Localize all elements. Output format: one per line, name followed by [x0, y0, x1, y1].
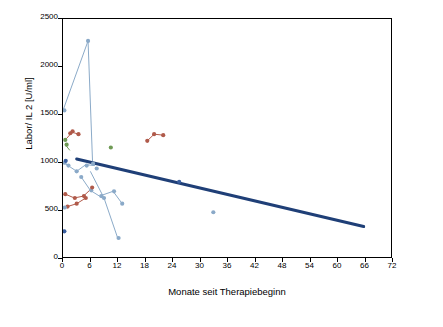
y-tick-mark	[58, 18, 62, 19]
x-tick-mark	[90, 258, 91, 262]
data-point	[102, 196, 106, 200]
data-point	[120, 202, 124, 206]
data-point	[177, 180, 181, 184]
y-tick-mark	[58, 162, 62, 163]
data-point	[91, 162, 95, 166]
x-tick-label: 6	[78, 262, 102, 270]
data-point	[76, 132, 80, 136]
data-point	[85, 164, 89, 168]
chart-container: Labor/ IL 2 [U/ml] 05001000150020002500 …	[0, 0, 443, 327]
series-line	[81, 177, 122, 204]
data-point	[63, 192, 67, 196]
x-tick-label: 72	[380, 262, 404, 270]
x-axis-title: Monate seit Therapiebeginn	[62, 286, 392, 297]
data-point	[63, 108, 66, 112]
data-point	[161, 133, 165, 137]
data-point	[73, 196, 77, 200]
x-tick-mark	[227, 258, 228, 262]
y-tick-label: 1500	[20, 109, 58, 117]
series-line	[63, 41, 88, 110]
trend-line	[77, 159, 364, 227]
y-tick-label: 1000	[20, 157, 58, 165]
x-tick-label: 18	[133, 262, 157, 270]
data-point	[112, 189, 116, 193]
x-tick-mark	[117, 258, 118, 262]
x-tick-mark	[172, 258, 173, 262]
data-point	[116, 236, 120, 240]
plot-svg	[63, 19, 391, 257]
x-tick-mark	[200, 258, 201, 262]
series-line	[65, 188, 92, 198]
data-point	[75, 202, 79, 206]
data-point	[145, 139, 149, 143]
data-point	[90, 185, 94, 189]
data-point	[64, 159, 68, 163]
y-tick-label: 0	[20, 253, 58, 261]
series-line	[90, 171, 117, 238]
x-tick-mark	[392, 258, 393, 262]
x-tick-label: 48	[270, 262, 294, 270]
x-tick-mark	[62, 258, 63, 262]
x-tick-label: 0	[50, 262, 74, 270]
data-point	[109, 145, 113, 149]
y-tick-label: 2500	[20, 13, 58, 21]
data-points	[63, 39, 215, 240]
data-point	[79, 175, 83, 179]
data-point	[86, 39, 90, 43]
x-tick-mark	[365, 258, 366, 262]
x-tick-mark	[282, 258, 283, 262]
y-tick-label: 2000	[20, 61, 58, 69]
x-tick-label: 30	[188, 262, 212, 270]
x-tick-mark	[337, 258, 338, 262]
x-tick-mark	[145, 258, 146, 262]
x-tick-mark	[255, 258, 256, 262]
data-point	[84, 196, 88, 200]
x-tick-label: 60	[325, 262, 349, 270]
data-point	[75, 169, 79, 173]
x-tick-label: 12	[105, 262, 129, 270]
data-point	[95, 166, 99, 170]
y-tick-mark	[58, 210, 62, 211]
y-tick-mark	[58, 66, 62, 67]
trend-line-segment	[77, 159, 364, 227]
data-point	[63, 138, 67, 142]
x-tick-label: 24	[160, 262, 184, 270]
plot-area	[62, 18, 392, 258]
x-tick-label: 42	[243, 262, 267, 270]
series-line	[88, 41, 93, 164]
data-point	[152, 132, 156, 136]
x-tick-label: 66	[353, 262, 377, 270]
data-point	[65, 143, 69, 147]
y-tick-mark	[58, 114, 62, 115]
x-tick-label: 54	[298, 262, 322, 270]
data-point	[66, 164, 70, 168]
y-tick-label: 500	[20, 205, 58, 213]
x-tick-mark	[310, 258, 311, 262]
x-tick-label: 36	[215, 262, 239, 270]
data-point	[70, 129, 74, 133]
data-point	[211, 210, 215, 214]
data-point	[63, 229, 66, 233]
